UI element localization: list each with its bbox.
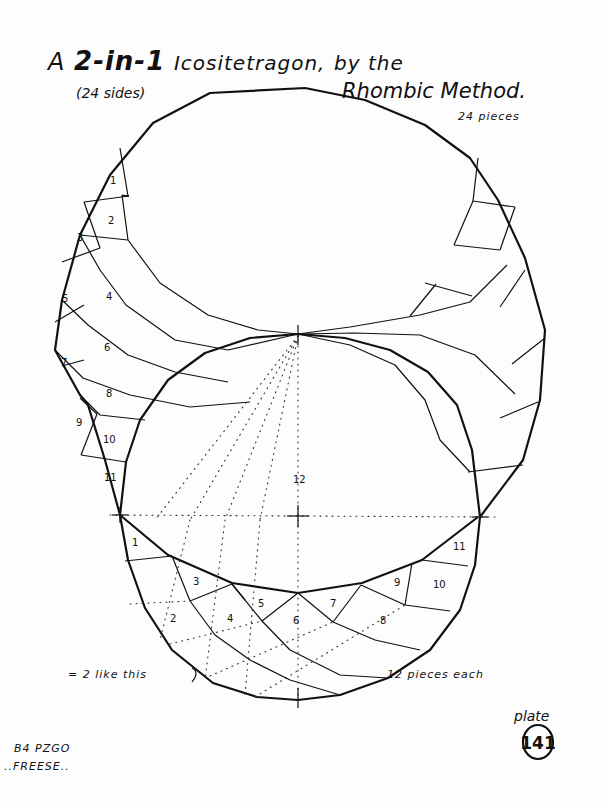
equals-note: = 2 like this — [68, 668, 147, 681]
svg-text:2: 2 — [170, 613, 176, 624]
svg-text:1: 1 — [132, 537, 138, 548]
svg-text:9: 9 — [394, 577, 400, 588]
sides-note: (24 sides) — [76, 85, 145, 101]
upper-pieces-label: 24 pieces — [458, 110, 520, 123]
svg-text:1: 1 — [110, 175, 116, 186]
center-piece-number: 12 — [293, 474, 306, 485]
svg-text:4: 4 — [227, 613, 233, 624]
svg-text:8: 8 — [380, 615, 386, 626]
svg-text:6: 6 — [293, 615, 299, 626]
svg-text:2: 2 — [108, 215, 114, 226]
svg-text:10: 10 — [433, 579, 446, 590]
svg-text:9: 9 — [76, 417, 82, 428]
svg-text:8: 8 — [106, 388, 112, 399]
method-label: Rhombic Method. — [342, 79, 526, 103]
author-line-1: B4 PZGO — [14, 742, 70, 755]
inner-circle — [120, 334, 480, 593]
svg-text:7: 7 — [61, 357, 67, 368]
svg-text:5: 5 — [62, 293, 68, 304]
title-line: A 2-in-1 Icositetragon, by the — [46, 46, 404, 76]
bracket-mark — [192, 668, 196, 682]
svg-text:3: 3 — [193, 576, 199, 587]
svg-text:10: 10 — [103, 434, 116, 445]
plate-number: 141 — [520, 733, 556, 753]
upper-right-strands — [298, 158, 545, 472]
lower-pieces-label: 12 pieces each — [387, 668, 484, 681]
center-marks — [112, 325, 488, 708]
svg-text:11: 11 — [104, 472, 117, 483]
svg-text:7: 7 — [330, 598, 336, 609]
svg-text:6: 6 — [104, 342, 110, 353]
plate-label: plate — [513, 708, 549, 724]
author-line-2: ..FREESE.. — [4, 760, 70, 773]
svg-text:4: 4 — [106, 291, 112, 302]
icositetragon-diagram: A 2-in-1 Icositetragon, by the (24 sides… — [0, 0, 608, 805]
svg-text:5: 5 — [258, 598, 264, 609]
drawing-sheet: A 2-in-1 Icositetragon, by the (24 sides… — [0, 0, 608, 805]
svg-text:11: 11 — [453, 541, 466, 552]
svg-text:3: 3 — [77, 232, 83, 243]
upper-piece-numbers: 1 2 3 4 5 6 7 8 9 10 11 — [61, 175, 117, 483]
